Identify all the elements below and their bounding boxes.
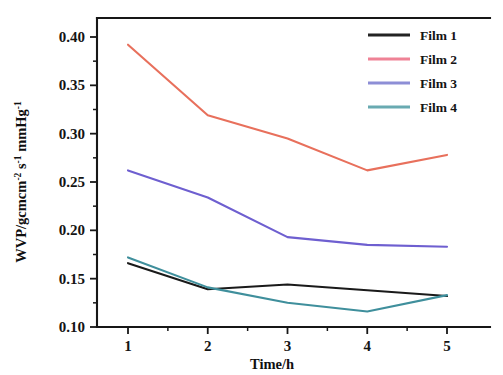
x-tick-label: 4	[364, 338, 372, 354]
y-axis-title-main: WVP/gcmcm	[13, 181, 29, 263]
y-axis-title-mid-1: s	[13, 163, 29, 173]
legend-label-4: Film 4	[420, 100, 457, 115]
x-tick-label: 2	[204, 338, 212, 354]
series-line-3	[128, 170, 447, 246]
series-group	[128, 45, 447, 312]
y-axis-title-mid-2: mmHg	[13, 108, 29, 155]
tick-labels-group: 0.100.150.200.250.300.350.4012345	[59, 29, 451, 354]
wvp-line-chart: 0.100.150.200.250.300.350.4012345 Film 1…	[0, 0, 503, 375]
y-axis-title-sup-3: -1	[13, 101, 23, 109]
y-tick-label: 0.15	[59, 271, 85, 287]
legend-label-2: Film 2	[420, 52, 457, 67]
svg-text:WVP/gcmcm-2 s-1 mmHg-1: WVP/gcmcm-2 s-1 mmHg-1	[13, 101, 29, 263]
legend-label-3: Film 3	[420, 76, 457, 91]
legend-item-4: Film 4	[368, 100, 457, 115]
legend-item-3: Film 3	[368, 76, 457, 91]
x-axis-title: Time/h	[250, 356, 294, 372]
series-line-1	[128, 263, 447, 296]
y-axis-title: WVP/gcmcm-2 s-1 mmHg-1	[13, 101, 29, 263]
x-tick-label: 3	[284, 338, 292, 354]
x-tick-label: 5	[443, 338, 451, 354]
y-tick-label: 0.20	[59, 222, 85, 238]
y-tick-label: 0.35	[59, 77, 85, 93]
y-tick-label: 0.25	[59, 174, 85, 190]
legend-item-2: Film 2	[368, 52, 457, 67]
y-tick-label: 0.40	[59, 29, 85, 45]
x-tick-label: 1	[124, 338, 132, 354]
chart-legend: Film 1Film 2Film 3Film 4	[368, 28, 457, 115]
y-tick-label: 0.30	[59, 126, 85, 142]
y-tick-label: 0.10	[59, 319, 85, 335]
legend-item-1: Film 1	[368, 28, 457, 43]
legend-label-1: Film 1	[420, 28, 457, 43]
chart-figure: 0.100.150.200.250.300.350.4012345 Film 1…	[0, 0, 503, 375]
